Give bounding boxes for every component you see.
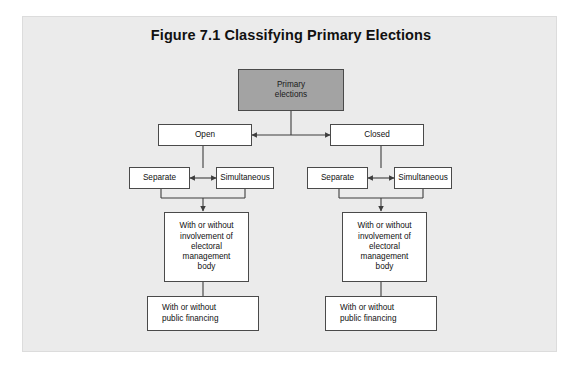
node-closed-emb-line5: body	[346, 262, 423, 272]
node-closed-emb-line2: involvement of	[346, 232, 423, 242]
node-closed-emb-involvement[interactable]: With or without involvement of electoral…	[342, 212, 427, 282]
node-primary-elections[interactable]: Primary elections	[238, 69, 344, 111]
node-open-financing-line2: public financing	[162, 314, 255, 324]
node-open-emb-line4: management	[168, 252, 245, 262]
node-closed-simultaneous[interactable]: Simultaneous	[394, 167, 452, 189]
node-closed[interactable]: Closed	[330, 124, 424, 146]
node-primary-elections-line2: elections	[242, 90, 340, 100]
node-open-emb-line1: With or without	[168, 221, 245, 231]
node-closed-separate-label: Separate	[321, 173, 354, 183]
node-closed-financing-line2: public financing	[340, 314, 433, 324]
node-open-separate[interactable]: Separate	[129, 167, 190, 189]
node-open-emb-line2: involvement of	[168, 232, 245, 242]
node-open-public-financing[interactable]: With or without public financing	[147, 296, 259, 331]
figure-container: Figure 7.1 Classifying Primary Elections	[0, 0, 582, 370]
node-closed-public-financing[interactable]: With or without public financing	[325, 296, 437, 331]
node-closed-separate[interactable]: Separate	[307, 167, 368, 189]
node-open-simultaneous[interactable]: Simultaneous	[216, 167, 274, 189]
node-open[interactable]: Open	[158, 124, 252, 146]
node-closed-financing-line1: With or without	[340, 303, 433, 313]
connector-layer	[0, 0, 582, 370]
node-open-separate-label: Separate	[143, 173, 176, 183]
node-closed-emb-line3: electoral	[346, 242, 423, 252]
node-closed-simultaneous-label: Simultaneous	[398, 173, 448, 183]
node-open-financing-line1: With or without	[162, 303, 255, 313]
node-closed-label: Closed	[364, 130, 390, 140]
node-open-emb-line3: electoral	[168, 242, 245, 252]
node-open-label: Open	[195, 130, 215, 140]
node-open-simultaneous-label: Simultaneous	[220, 173, 270, 183]
node-closed-emb-line1: With or without	[346, 221, 423, 231]
node-open-emb-line5: body	[168, 262, 245, 272]
node-closed-emb-line4: management	[346, 252, 423, 262]
node-primary-elections-line1: Primary	[242, 80, 340, 90]
node-open-emb-involvement[interactable]: With or without involvement of electoral…	[164, 212, 249, 282]
